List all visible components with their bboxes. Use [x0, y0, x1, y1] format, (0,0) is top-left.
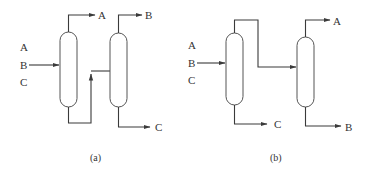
- column-1-bottoms-stream: [235, 105, 268, 124]
- column-1-overhead-stream: [69, 15, 96, 32]
- distillation-sequence-diagrams: A B C A B C (a) A B C C A: [0, 0, 368, 180]
- feed-label-b: B: [188, 57, 195, 69]
- column-2-bottoms-stream: [306, 107, 342, 126]
- product-label-b: B: [345, 121, 352, 133]
- feed-label-a: A: [188, 39, 196, 51]
- product-label-a: A: [333, 15, 341, 27]
- product-label-c: C: [155, 121, 162, 133]
- caption-a: (a): [90, 152, 101, 164]
- feed-label-c: C: [188, 74, 195, 86]
- feed-label-c: C: [20, 76, 27, 88]
- diagram-a: A B C A B C (a): [20, 9, 162, 164]
- diagram-b: A B C C A B (b): [188, 15, 352, 164]
- column-2: [110, 33, 127, 107]
- column-2-overhead-stream: [119, 15, 143, 33]
- feed-label-a: A: [20, 41, 28, 53]
- column-2: [297, 37, 314, 107]
- column-1-overhead-stream: [235, 20, 297, 67]
- column-2-overhead-stream: [306, 20, 331, 37]
- product-label-a: A: [98, 9, 106, 21]
- feed-label-b: B: [20, 59, 27, 71]
- product-label-c: C: [274, 118, 281, 130]
- caption-b: (b): [270, 152, 282, 164]
- column-2-bottoms-stream: [119, 107, 151, 127]
- column-1: [60, 32, 77, 107]
- column-1: [226, 33, 243, 105]
- product-label-b: B: [145, 9, 152, 21]
